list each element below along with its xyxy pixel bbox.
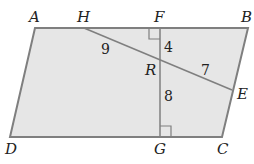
parallelogram-diagram: A H F B R E D G C 9 4 7 8	[0, 0, 254, 164]
label-C: C	[217, 140, 229, 158]
length-FR: 4	[164, 39, 173, 55]
length-HR: 9	[101, 41, 110, 57]
label-E: E	[236, 85, 248, 103]
label-R: R	[144, 61, 156, 79]
label-G: G	[154, 140, 166, 158]
label-D: D	[4, 140, 17, 158]
label-B: B	[240, 8, 252, 26]
label-F: F	[153, 8, 165, 26]
label-A: A	[27, 8, 40, 26]
label-H: H	[76, 8, 91, 26]
length-RE: 7	[201, 62, 210, 78]
length-RG: 8	[164, 88, 173, 104]
